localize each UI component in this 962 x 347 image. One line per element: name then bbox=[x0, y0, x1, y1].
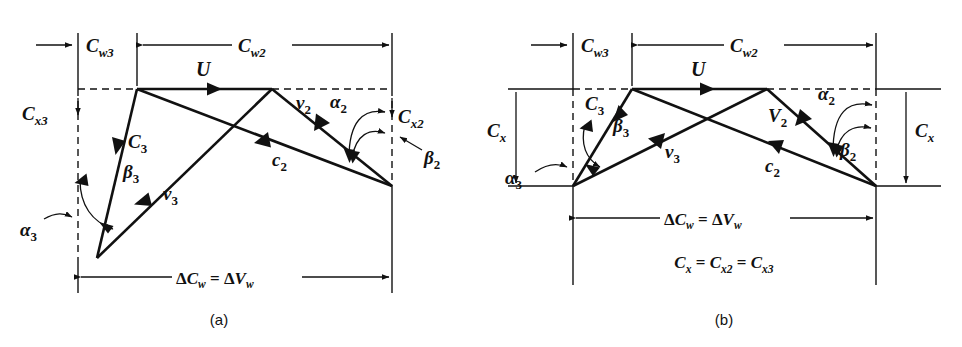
arrowhead-b-v2 bbox=[795, 109, 812, 126]
label-a-u: U bbox=[196, 58, 212, 80]
label-a-v3: v3 bbox=[163, 183, 178, 208]
label-a-alpha2: α2 bbox=[330, 91, 347, 116]
label-b-beta3: β3 bbox=[612, 115, 630, 140]
label-b-cx-right: Cx bbox=[915, 120, 935, 145]
velocity-triangle-figure: Cw3 Cw2 U C3 v3 c2 v2 bbox=[0, 0, 962, 347]
label-b-u: U bbox=[691, 58, 707, 80]
label-a-c2: c2 bbox=[272, 149, 287, 174]
label-b-alpha3: α3 bbox=[505, 167, 523, 192]
arrowhead-a-u bbox=[207, 83, 222, 96]
leader-b-alpha3 bbox=[535, 164, 567, 172]
label-a-c3: C3 bbox=[128, 131, 148, 156]
arrowhead-b-beta3 bbox=[580, 120, 594, 133]
label-b-cw3: Cw3 bbox=[581, 35, 609, 60]
label-a-alpha3: α3 bbox=[20, 219, 38, 244]
label-a-delta-cw: ΔCw = ΔVw bbox=[176, 269, 254, 291]
label-b-cx-left: Cx bbox=[487, 120, 507, 145]
arrowhead-a-beta3 bbox=[75, 174, 89, 187]
caption-a: (a) bbox=[210, 311, 228, 328]
label-a-cx2: Cx2 bbox=[398, 106, 424, 131]
label-b-v2: V2 bbox=[768, 105, 787, 130]
caption-b: (b) bbox=[715, 311, 733, 328]
label-a-cw3: Cw3 bbox=[86, 35, 114, 60]
leader-a-alpha3 bbox=[44, 214, 72, 219]
label-b-v3: v3 bbox=[665, 141, 680, 166]
label-b-c2: c2 bbox=[765, 155, 780, 180]
label-b-alpha2: α2 bbox=[818, 83, 835, 108]
note-b-cx-equation: Cx = Cx2 = Cx3 bbox=[674, 253, 774, 276]
arrowhead-b-u bbox=[700, 83, 715, 96]
arrowhead-a-v3 bbox=[134, 193, 152, 207]
label-a-cx3: Cx3 bbox=[22, 103, 48, 128]
label-a-beta3: β3 bbox=[122, 161, 140, 186]
label-a-beta2: β2 bbox=[423, 147, 440, 172]
panel-a: Cw3 Cw2 U C3 v3 c2 v2 bbox=[20, 33, 440, 328]
panel-b: Cw3 Cw2 U C3 v3 c2 V2 bbox=[487, 33, 941, 328]
label-b-c3: C3 bbox=[585, 93, 605, 118]
arrowhead-b-c2 bbox=[768, 140, 784, 154]
leader-a-beta2 bbox=[400, 137, 422, 150]
arc-a-beta3 bbox=[80, 180, 113, 229]
figure-root: Cw3 Cw2 U C3 v3 c2 v2 bbox=[0, 0, 962, 347]
label-b-delta-cw: ΔCw = ΔVw bbox=[664, 210, 742, 232]
